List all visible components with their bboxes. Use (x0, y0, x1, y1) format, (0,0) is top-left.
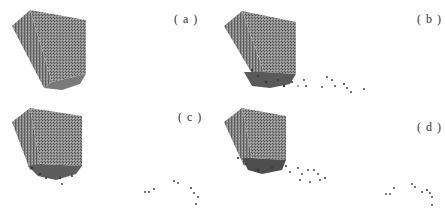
panel-a: ( a ) (0, 0, 222, 108)
panel-b: ( b ) (222, 0, 444, 108)
panel-d: ( d ) (222, 108, 444, 216)
panel-label-d: ( d ) (417, 120, 442, 135)
panel-label-c: ( c ) (178, 110, 202, 125)
panel-c: ( c ) (0, 108, 222, 216)
panel-label-b: ( b ) (417, 12, 442, 27)
particle-block-b (222, 0, 445, 108)
particle-block-d (222, 108, 445, 217)
panel-label-a: ( a ) (174, 12, 198, 27)
